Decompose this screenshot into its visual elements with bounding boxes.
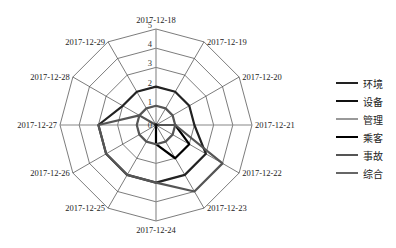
legend-item-equipment: 设备 [336, 92, 383, 110]
radial-tick-label: 3 [148, 58, 152, 68]
axis-category-label: 2017-12-20 [242, 72, 282, 82]
legend-label: 综合 [363, 166, 383, 181]
radial-tick-labels: 012345 [148, 20, 153, 130]
axis-category-label: 2017-12-23 [207, 203, 247, 213]
axis-category-label: 2017-12-24 [136, 225, 176, 235]
series-line [98, 115, 222, 191]
legend-swatch [336, 100, 358, 103]
legend-swatch [336, 154, 358, 157]
legend-item-passenger: 乘客 [336, 128, 383, 146]
legend-item-management: 管理 [336, 110, 383, 128]
legend-label: 环境 [363, 76, 383, 91]
radial-tick-label: 2 [148, 78, 152, 88]
legend-swatch [336, 82, 358, 85]
axis-category-label: 2017-12-29 [65, 37, 105, 47]
axis-category-label: 2017-12-22 [242, 168, 282, 178]
legend-swatch [336, 118, 358, 121]
legend: 环境 设备 管理 乘客 事故 综合 [336, 74, 383, 182]
radial-tick-label: 0 [148, 120, 152, 130]
legend-label: 设备 [363, 94, 383, 109]
legend-label: 乘客 [363, 130, 383, 145]
legend-item-environment: 环境 [336, 74, 383, 92]
axis-category-label: 2017-12-19 [207, 37, 247, 47]
legend-item-accident: 事故 [336, 146, 383, 164]
axis-category-label: 2017-12-26 [30, 168, 70, 178]
legend-label: 管理 [363, 112, 383, 127]
center-dot [154, 123, 158, 127]
axis-category-label: 2017-12-27 [17, 120, 57, 130]
radial-tick-label: 1 [148, 97, 152, 107]
legend-label: 事故 [363, 148, 383, 163]
legend-swatch [336, 172, 358, 175]
legend-swatch [336, 136, 358, 139]
legend-item-composite: 综合 [336, 164, 383, 182]
axis-category-label: 2017-12-25 [65, 203, 105, 213]
axis-category-label: 2017-12-18 [136, 15, 176, 25]
axis-category-label: 2017-12-21 [255, 120, 295, 130]
radial-tick-label: 4 [148, 39, 153, 49]
axis-category-label: 2017-12-28 [30, 72, 70, 82]
